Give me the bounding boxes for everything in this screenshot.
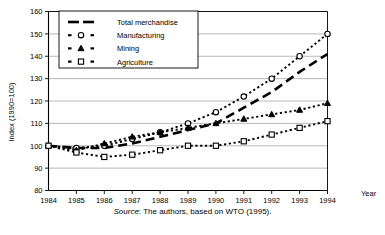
data-point-square: [158, 148, 163, 153]
data-point-triangle: [269, 111, 275, 116]
data-point-square: [102, 154, 107, 159]
data-point-circle: [213, 109, 218, 114]
data-point-circle: [325, 31, 330, 36]
x-tick-label: 1989: [180, 196, 197, 205]
y-tick-label: 80: [34, 186, 42, 195]
data-point-square: [130, 152, 135, 157]
data-point-square: [297, 125, 302, 130]
y-axis-tick-labels-group: 8090100110120130140150160: [30, 7, 43, 195]
source-text: : The authors, based on WTO (1995).: [139, 207, 272, 216]
figure-container: 8090100110120130140150160 19841985198619…: [0, 0, 385, 235]
data-point-square: [185, 143, 190, 148]
data-point-square: [78, 59, 83, 64]
x-tick-label: 1985: [68, 196, 85, 205]
y-tick-label: 110: [31, 119, 43, 128]
data-point-square: [325, 119, 330, 124]
data-point-square: [213, 143, 218, 148]
x-tick-label: 1992: [263, 196, 280, 205]
x-axis-title: Year: [361, 189, 377, 198]
source-note: Source: The authors, based on WTO (1995)…: [0, 207, 385, 216]
x-tick-label: 1993: [291, 196, 308, 205]
y-tick-label: 120: [30, 97, 43, 106]
x-tick-label: 1988: [152, 196, 169, 205]
x-axis-tick-labels-group: 1984198519861987198819891990199119921993…: [40, 196, 336, 205]
data-point-square: [74, 150, 79, 155]
x-tick-label: 1986: [96, 196, 113, 205]
data-point-circle: [297, 54, 302, 59]
y-axis-title: Index (1990=100): [7, 82, 16, 142]
data-point-circle: [269, 76, 274, 81]
x-tick-label: 1990: [208, 196, 225, 205]
legend-label-2: Mining: [117, 44, 139, 53]
data-point-square: [241, 139, 246, 144]
data-point-circle: [78, 33, 83, 38]
data-point-triangle: [241, 116, 247, 121]
x-tick-label: 1987: [124, 196, 141, 205]
legend-label-1: Manufacturing: [117, 31, 165, 40]
y-tick-label: 160: [30, 7, 43, 16]
x-tick-label: 1984: [40, 196, 57, 205]
line-chart: 8090100110120130140150160 19841985198619…: [0, 0, 385, 235]
data-point-circle: [241, 94, 246, 99]
x-tick-label: 1994: [319, 196, 336, 205]
chart-legend: Total merchandiseManufacturingMiningAgri…: [59, 11, 198, 68]
data-point-square: [269, 132, 274, 137]
x-tick-label: 1991: [235, 196, 252, 205]
y-tick-label: 90: [34, 164, 42, 173]
source-label: Source: [113, 207, 138, 216]
y-tick-label: 140: [30, 52, 43, 61]
y-tick-label: 130: [30, 74, 43, 83]
legend-label-0: Total merchandise: [117, 18, 178, 27]
y-tick-label: 150: [30, 30, 43, 39]
y-tick-label: 100: [30, 142, 43, 151]
data-point-triangle: [297, 107, 303, 112]
legend-label-3: Agriculture: [117, 58, 153, 67]
data-point-square: [46, 143, 51, 148]
